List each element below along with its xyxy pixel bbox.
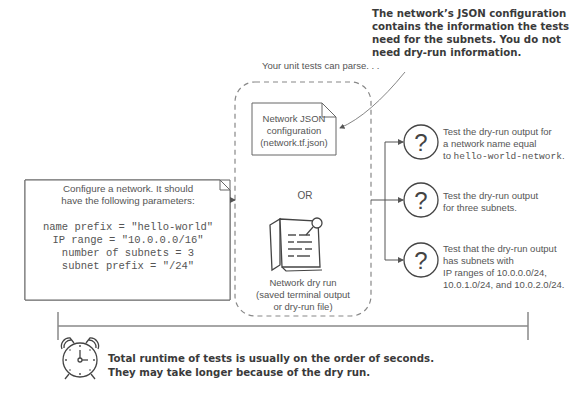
test-line: Test the dry-run output for bbox=[443, 126, 576, 138]
test-subnet-ranges: Test that the dry-run output has subnets… bbox=[443, 243, 576, 291]
annotation-line: need dry-run information. bbox=[372, 46, 576, 59]
dry-run-line: (saved terminal output bbox=[240, 289, 366, 301]
test-text-prefix: to bbox=[443, 150, 454, 161]
annotation-line: The network’s JSON configuration bbox=[372, 7, 576, 20]
parse-label: Your unit tests can parse. . . bbox=[262, 60, 379, 71]
param-name-prefix: name prefix = "hello-world" bbox=[26, 221, 230, 234]
runtime-line: They may take longer because of the dry … bbox=[108, 366, 568, 380]
pinned-notes-icon bbox=[270, 218, 322, 271]
test-line: Test the dry-run output bbox=[443, 190, 576, 202]
dry-run-caption: Network dry run (saved terminal output o… bbox=[240, 277, 366, 313]
test-line: a network name equal bbox=[443, 138, 576, 150]
svg-text:?: ? bbox=[414, 129, 427, 156]
config-intro-line: Configure a network. It should bbox=[26, 183, 230, 195]
network-name-code: hello-world-network bbox=[454, 151, 562, 162]
test-network-name: Test the dry-run output for a network na… bbox=[443, 126, 576, 163]
json-annotation: The network’s JSON configuration contain… bbox=[372, 7, 576, 59]
json-doc-line: (network.tf.json) bbox=[252, 137, 336, 149]
config-note: Configure a network. It should have the … bbox=[26, 183, 230, 273]
annotation-line: contains the information the tests bbox=[372, 20, 576, 33]
test-line: for three subnets. bbox=[443, 202, 576, 214]
svg-text:?: ? bbox=[414, 187, 427, 214]
config-intro-line: have the following parameters: bbox=[26, 195, 230, 207]
json-doc-line: configuration bbox=[252, 125, 336, 137]
param-subnet-count: number of subnets = 3 bbox=[26, 247, 230, 260]
json-document: Network JSON configuration (network.tf.j… bbox=[252, 113, 336, 149]
test-line: to hello-world-network. bbox=[443, 150, 576, 163]
runtime-note: Total runtime of tests is usually on the… bbox=[108, 352, 568, 380]
test-line: has subnets with bbox=[443, 255, 576, 267]
annotation-line: need for the subnets. You do not bbox=[372, 33, 576, 46]
test-text-suffix: . bbox=[562, 150, 565, 161]
dry-run-line: or dry-run file) bbox=[240, 301, 366, 313]
param-ip-range: IP range = "10.0.0.0/16" bbox=[26, 234, 230, 247]
test-line: Test that the dry-run output bbox=[443, 243, 576, 255]
svg-text:?: ? bbox=[414, 247, 427, 274]
test-subnet-count: Test the dry-run output for three subnet… bbox=[443, 190, 576, 214]
test-line: IP ranges of 10.0.0.0/24, bbox=[443, 267, 576, 279]
json-doc-line: Network JSON bbox=[252, 113, 336, 125]
or-label: OR bbox=[280, 190, 330, 202]
test-line: 10.0.1.0/24, and 10.0.2.0/24. bbox=[443, 279, 576, 291]
alarm-clock-icon bbox=[61, 338, 98, 379]
dry-run-line: Network dry run bbox=[240, 277, 366, 289]
param-subnet-prefix: subnet prefix = "/24" bbox=[26, 260, 230, 273]
runtime-line: Total runtime of tests is usually on the… bbox=[108, 352, 568, 366]
